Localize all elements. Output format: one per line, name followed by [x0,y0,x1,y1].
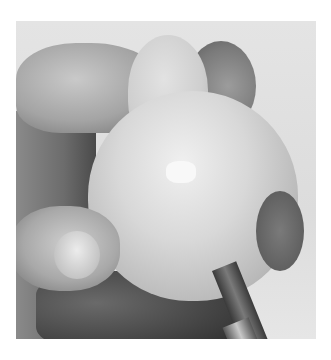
pear-highlight [166,161,196,183]
photo [16,21,316,339]
ring-finger [256,191,304,271]
thumbnail [54,231,100,279]
